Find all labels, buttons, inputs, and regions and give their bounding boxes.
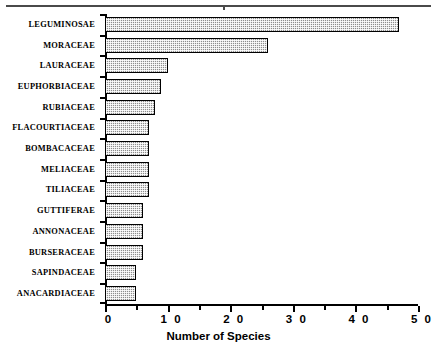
bar — [105, 182, 149, 197]
bar — [105, 17, 399, 32]
x-axis-tick-label: 0 — [105, 313, 113, 325]
bar — [105, 265, 136, 280]
category-label: ANACARDIACEAE — [0, 283, 100, 304]
bar-row — [105, 35, 418, 56]
bar-row — [105, 118, 418, 139]
y-axis-tick — [100, 283, 105, 285]
bar — [105, 286, 136, 301]
y-axis-tick — [100, 180, 105, 182]
bar — [105, 38, 268, 53]
x-axis-tick-minor — [324, 306, 326, 310]
bar — [105, 58, 168, 73]
category-label: LAURACEAE — [0, 55, 100, 76]
category-label: MORACEAE — [0, 35, 100, 56]
category-label: GUTTIFERAE — [0, 200, 100, 221]
x-axis-tick-major — [293, 306, 295, 312]
bar-row — [105, 283, 418, 304]
bar — [105, 224, 143, 239]
bar-row — [105, 180, 418, 201]
bars-container — [105, 14, 418, 304]
y-axis-tick — [100, 262, 105, 264]
x-axis-tick-major — [105, 306, 107, 312]
x-axis-tick-minor — [262, 306, 264, 310]
category-label: LEGUMINOSAE — [0, 14, 100, 35]
category-label: TILIACEAE — [0, 180, 100, 201]
bar — [105, 162, 149, 177]
top-rule-tick — [223, 5, 225, 10]
x-axis-tick-minor — [136, 306, 138, 310]
x-axis-tick-label: 1 0 — [161, 313, 183, 325]
y-axis-tick — [100, 97, 105, 99]
x-axis-tick-label: 2 0 — [223, 313, 245, 325]
x-axis-tick-label: 5 0 — [411, 313, 433, 325]
x-axis-tick-label: 4 0 — [348, 313, 370, 325]
bar-row — [105, 55, 418, 76]
bar-row — [105, 159, 418, 180]
x-axis-tick-major — [355, 306, 357, 312]
category-label: BOMBACACEAE — [0, 138, 100, 159]
y-axis-tick — [100, 14, 105, 16]
bar-row — [105, 97, 418, 118]
x-axis-title: Number of Species — [0, 330, 437, 342]
top-rule-divider — [6, 5, 431, 7]
bar-row — [105, 242, 418, 263]
category-label: EUPHORBIACEAE — [0, 76, 100, 97]
y-axis-tick — [100, 138, 105, 140]
category-label: MELIACEAE — [0, 159, 100, 180]
y-axis-tick — [100, 159, 105, 161]
bar-row — [105, 221, 418, 242]
bar-row — [105, 200, 418, 221]
bar — [105, 203, 143, 218]
x-axis-tick-label: 3 0 — [286, 313, 308, 325]
x-axis-tick-major — [230, 306, 232, 312]
x-axis-tick-major — [418, 306, 420, 312]
y-axis-tick — [100, 118, 105, 120]
x-axis-tick-minor — [199, 306, 201, 310]
y-axis-tick — [100, 35, 105, 37]
bar — [105, 120, 149, 135]
y-axis-tick — [100, 55, 105, 57]
y-axis-tick — [100, 76, 105, 78]
bar-row — [105, 14, 418, 35]
category-axis-labels: LEGUMINOSAEMORACEAELAURACEAEEUPHORBIACEA… — [0, 14, 100, 304]
category-label: RUBIACEAE — [0, 97, 100, 118]
bar — [105, 245, 143, 260]
bar-row — [105, 138, 418, 159]
bar-chart-figure: LEGUMINOSAEMORACEAELAURACEAEEUPHORBIACEA… — [0, 0, 437, 355]
category-label: ANNONACEAE — [0, 221, 100, 242]
category-label: SAPINDACEAE — [0, 262, 100, 283]
category-label: FLACOURTIACEAE — [0, 118, 100, 139]
x-axis-tick-minor — [387, 306, 389, 310]
category-label: BURSERACEAE — [0, 242, 100, 263]
bar — [105, 79, 161, 94]
bar-row — [105, 76, 418, 97]
y-axis-tick — [100, 200, 105, 202]
y-axis-tick — [100, 242, 105, 244]
bar-row — [105, 262, 418, 283]
x-axis-tick-major — [168, 306, 170, 312]
bar — [105, 100, 155, 115]
y-axis-tick — [100, 221, 105, 223]
plot-area: 01 02 03 04 05 0 — [105, 14, 418, 304]
bar — [105, 141, 149, 156]
